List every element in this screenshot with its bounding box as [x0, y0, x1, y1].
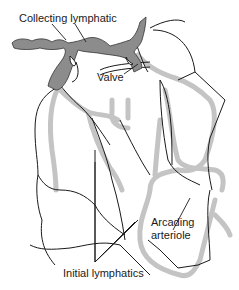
label-valve: Valve	[97, 71, 124, 83]
arcading-arterioles	[50, 55, 230, 276]
label-collecting-lymphatic: Collecting lymphatic	[19, 12, 117, 24]
label-initial-lymphatics: Initial lymphatics	[63, 267, 144, 279]
lymphatic-network-diagram: Collecting lymphatic Valve Arcading arte…	[0, 0, 239, 290]
collecting-lymphatic	[12, 17, 146, 90]
label-arcading-arteriole-line2: arteriole	[151, 229, 191, 241]
label-arcading-arteriole-line1: Arcading	[151, 216, 194, 228]
network-drawing	[0, 0, 239, 290]
